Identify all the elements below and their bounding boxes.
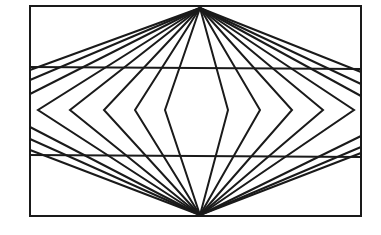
horizontal-line-2 — [30, 155, 361, 157]
ray-right-top-3 — [200, 8, 361, 96]
ray-right-bottom-3 — [200, 153, 361, 215]
ray-left-bottom-2 — [30, 139, 200, 215]
edge-rays — [30, 8, 361, 215]
line-diagram — [0, 0, 381, 235]
frame-border — [30, 6, 361, 216]
ray-right-bottom-1 — [200, 136, 361, 215]
horizontal-lines — [30, 67, 361, 157]
chevron-line-6 — [200, 8, 228, 215]
ray-right-top-2 — [200, 8, 361, 84]
illusion-figure — [0, 0, 381, 235]
ray-left-top-2 — [30, 8, 200, 80]
frame-rectangle — [30, 6, 361, 216]
radiating-chevron-lines — [38, 8, 354, 215]
